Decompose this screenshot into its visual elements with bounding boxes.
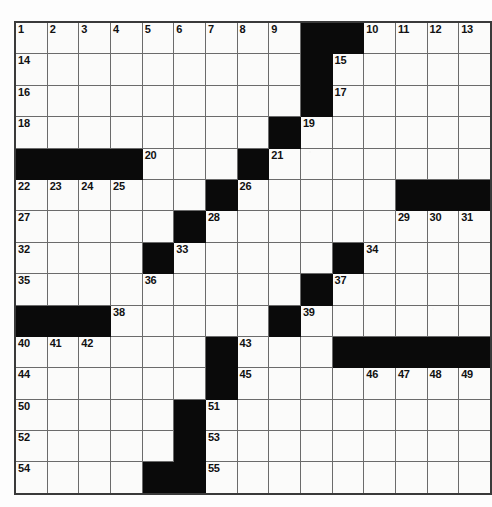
crossword-cell[interactable] <box>395 399 427 430</box>
crossword-cell[interactable] <box>269 54 301 85</box>
crossword-cell[interactable] <box>459 85 491 116</box>
crossword-cell[interactable] <box>427 85 459 116</box>
crossword-cell[interactable] <box>174 305 206 336</box>
crossword-cell[interactable]: 35 <box>15 274 47 305</box>
crossword-cell[interactable] <box>142 117 174 148</box>
crossword-cell[interactable] <box>427 462 459 494</box>
crossword-cell[interactable] <box>174 148 206 179</box>
crossword-cell[interactable] <box>174 85 206 116</box>
crossword-cell[interactable] <box>205 242 237 273</box>
crossword-cell[interactable] <box>364 274 396 305</box>
crossword-cell[interactable] <box>47 117 79 148</box>
crossword-cell[interactable] <box>395 242 427 273</box>
crossword-cell[interactable] <box>142 211 174 242</box>
crossword-cell[interactable] <box>269 274 301 305</box>
crossword-cell[interactable] <box>300 399 332 430</box>
crossword-cell[interactable]: 4 <box>110 22 142 54</box>
crossword-cell[interactable] <box>142 54 174 85</box>
crossword-cell[interactable] <box>459 242 491 273</box>
crossword-cell[interactable] <box>110 336 142 367</box>
crossword-cell[interactable] <box>174 274 206 305</box>
crossword-cell[interactable]: 1 <box>15 22 47 54</box>
crossword-cell[interactable] <box>142 179 174 210</box>
crossword-cell[interactable]: 46 <box>364 368 396 399</box>
crossword-cell[interactable] <box>237 462 269 494</box>
crossword-cell[interactable]: 55 <box>205 462 237 494</box>
crossword-cell[interactable] <box>237 274 269 305</box>
crossword-cell[interactable] <box>269 179 301 210</box>
crossword-cell[interactable] <box>110 242 142 273</box>
crossword-cell[interactable]: 49 <box>459 368 491 399</box>
crossword-cell[interactable] <box>364 148 396 179</box>
crossword-cell[interactable] <box>364 211 396 242</box>
crossword-cell[interactable] <box>110 399 142 430</box>
crossword-cell[interactable] <box>395 54 427 85</box>
crossword-cell[interactable] <box>142 399 174 430</box>
crossword-cell[interactable] <box>205 274 237 305</box>
crossword-cell[interactable] <box>79 117 111 148</box>
crossword-cell[interactable] <box>142 305 174 336</box>
crossword-cell[interactable]: 38 <box>110 305 142 336</box>
crossword-cell[interactable]: 40 <box>15 336 47 367</box>
crossword-cell[interactable] <box>174 368 206 399</box>
crossword-cell[interactable]: 42 <box>79 336 111 367</box>
crossword-cell[interactable] <box>47 242 79 273</box>
crossword-cell[interactable]: 36 <box>142 274 174 305</box>
crossword-cell[interactable] <box>47 462 79 494</box>
crossword-cell[interactable] <box>332 148 364 179</box>
crossword-cell[interactable]: 18 <box>15 117 47 148</box>
crossword-cell[interactable]: 22 <box>15 179 47 210</box>
crossword-cell[interactable] <box>79 462 111 494</box>
crossword-cell[interactable] <box>110 462 142 494</box>
crossword-cell[interactable]: 54 <box>15 462 47 494</box>
crossword-cell[interactable]: 45 <box>237 368 269 399</box>
crossword-cell[interactable] <box>47 431 79 462</box>
crossword-cell[interactable]: 44 <box>15 368 47 399</box>
crossword-cell[interactable] <box>395 305 427 336</box>
crossword-cell[interactable] <box>300 211 332 242</box>
crossword-cell[interactable] <box>395 148 427 179</box>
crossword-cell[interactable]: 52 <box>15 431 47 462</box>
crossword-cell[interactable]: 41 <box>47 336 79 367</box>
crossword-cell[interactable] <box>174 179 206 210</box>
crossword-cell[interactable] <box>427 117 459 148</box>
crossword-cell[interactable]: 48 <box>427 368 459 399</box>
crossword-cell[interactable] <box>237 242 269 273</box>
crossword-cell[interactable] <box>47 274 79 305</box>
crossword-cell[interactable] <box>79 368 111 399</box>
crossword-cell[interactable]: 28 <box>205 211 237 242</box>
crossword-cell[interactable] <box>269 85 301 116</box>
crossword-cell[interactable] <box>110 274 142 305</box>
crossword-cell[interactable] <box>459 54 491 85</box>
crossword-cell[interactable]: 12 <box>427 22 459 54</box>
crossword-cell[interactable] <box>459 274 491 305</box>
crossword-cell[interactable] <box>364 117 396 148</box>
crossword-cell[interactable] <box>142 336 174 367</box>
crossword-cell[interactable]: 10 <box>364 22 396 54</box>
crossword-cell[interactable] <box>332 368 364 399</box>
crossword-cell[interactable] <box>237 399 269 430</box>
crossword-cell[interactable] <box>47 85 79 116</box>
crossword-cell[interactable] <box>79 274 111 305</box>
crossword-cell[interactable] <box>47 368 79 399</box>
crossword-cell[interactable] <box>110 368 142 399</box>
crossword-cell[interactable] <box>174 336 206 367</box>
crossword-cell[interactable] <box>427 148 459 179</box>
crossword-cell[interactable] <box>237 211 269 242</box>
crossword-cell[interactable] <box>332 179 364 210</box>
crossword-cell[interactable] <box>142 368 174 399</box>
crossword-cell[interactable]: 53 <box>205 431 237 462</box>
crossword-cell[interactable] <box>332 117 364 148</box>
crossword-cell[interactable]: 11 <box>395 22 427 54</box>
crossword-cell[interactable]: 29 <box>395 211 427 242</box>
crossword-cell[interactable] <box>237 85 269 116</box>
crossword-cell[interactable]: 31 <box>459 211 491 242</box>
crossword-cell[interactable] <box>205 305 237 336</box>
crossword-cell[interactable]: 26 <box>237 179 269 210</box>
crossword-cell[interactable] <box>332 305 364 336</box>
crossword-cell[interactable] <box>300 242 332 273</box>
crossword-cell[interactable] <box>364 179 396 210</box>
crossword-cell[interactable]: 33 <box>174 242 206 273</box>
crossword-cell[interactable] <box>427 54 459 85</box>
crossword-cell[interactable] <box>269 431 301 462</box>
